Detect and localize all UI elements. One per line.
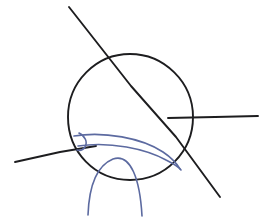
sketch-canvas (0, 0, 271, 220)
canvas-background (0, 0, 271, 220)
geometry-figure (0, 0, 271, 220)
